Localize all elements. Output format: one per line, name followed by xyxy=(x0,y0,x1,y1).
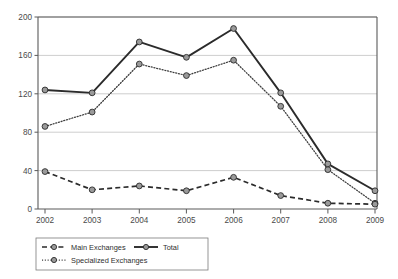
data-point-specialized-exchanges-2005[interactable] xyxy=(184,73,190,79)
x-axis-label-2002: 2002 xyxy=(36,216,55,225)
data-point-total-2002[interactable] xyxy=(42,87,48,93)
x-axis-label-2006: 2006 xyxy=(224,216,243,225)
series-main-exchanges xyxy=(42,169,378,207)
grid-lines xyxy=(38,17,377,171)
data-point-total-2006[interactable] xyxy=(231,26,237,32)
data-point-specialized-exchanges-2008[interactable] xyxy=(325,167,331,173)
x-axis-label-2003: 2003 xyxy=(83,216,102,225)
data-point-specialized-exchanges-2006[interactable] xyxy=(231,57,237,63)
data-point-total-2008[interactable] xyxy=(325,161,331,167)
line-chart: 200 160 120 80 40 0 2002 2003 2004 2005 … xyxy=(0,0,398,279)
data-point-main-exchanges-2007[interactable] xyxy=(278,193,284,199)
chart-legend: Main Exchanges Total Specialized Exchang… xyxy=(36,238,208,270)
legend-label-specialized-exchanges: Specialized Exchanges xyxy=(71,256,148,265)
data-point-main-exchanges-2004[interactable] xyxy=(136,183,142,189)
series-line-specialized-exchanges xyxy=(45,60,375,203)
chart-container: 200 160 120 80 40 0 2002 2003 2004 2005 … xyxy=(0,0,398,279)
x-axis-label-2004: 2004 xyxy=(130,216,149,225)
data-point-specialized-exchanges-2004[interactable] xyxy=(136,61,142,67)
y-axis-label-40: 40 xyxy=(23,167,33,176)
data-point-main-exchanges-2005[interactable] xyxy=(184,188,190,194)
y-axis-label-80: 80 xyxy=(23,128,33,137)
data-point-specialized-exchanges-2002[interactable] xyxy=(42,124,48,130)
x-axis-label-2009: 2009 xyxy=(366,216,385,225)
x-axis-label-2008: 2008 xyxy=(319,216,338,225)
legend-marker-main-exchanges xyxy=(51,244,56,249)
data-point-total-2009[interactable] xyxy=(372,188,378,194)
data-point-specialized-exchanges-2003[interactable] xyxy=(89,109,95,115)
data-point-main-exchanges-2006[interactable] xyxy=(231,174,237,180)
data-point-main-exchanges-2003[interactable] xyxy=(89,187,95,193)
data-point-total-2007[interactable] xyxy=(278,90,284,96)
legend-label-main-exchanges: Main Exchanges xyxy=(71,243,126,252)
series-specialized-exchanges xyxy=(42,57,378,206)
y-axis-label-120: 120 xyxy=(18,90,32,99)
data-point-main-exchanges-2009[interactable] xyxy=(372,201,378,207)
data-point-total-2004[interactable] xyxy=(136,39,142,45)
x-axis-labels: 2002 2003 2004 2005 2006 2007 2008 2009 xyxy=(36,216,385,225)
y-axis-labels: 200 160 120 80 40 0 xyxy=(18,13,32,214)
y-axis-label-0: 0 xyxy=(27,205,32,214)
data-point-specialized-exchanges-2007[interactable] xyxy=(278,103,284,109)
x-axis-label-2007: 2007 xyxy=(272,216,291,225)
data-point-total-2003[interactable] xyxy=(89,90,95,96)
series-layer xyxy=(42,26,378,207)
data-point-main-exchanges-2008[interactable] xyxy=(325,200,331,206)
x-axis-ticks xyxy=(45,209,375,214)
y-axis-label-200: 200 xyxy=(18,13,32,22)
x-axis-label-2005: 2005 xyxy=(177,216,196,225)
legend-label-total: Total xyxy=(163,243,179,252)
data-point-main-exchanges-2002[interactable] xyxy=(42,169,48,175)
data-point-total-2005[interactable] xyxy=(184,54,190,60)
y-axis-label-160: 160 xyxy=(18,51,32,60)
legend-marker-total xyxy=(143,244,148,249)
legend-marker-specialized-exchanges xyxy=(51,257,56,262)
